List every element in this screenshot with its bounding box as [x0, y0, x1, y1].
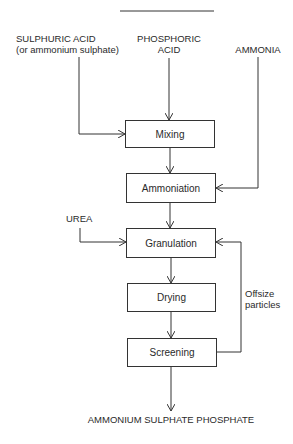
recycle-label: Offsize particles [245, 288, 280, 310]
step-granulation: Granulation [126, 228, 216, 258]
input-sulphuric-acid: SULPHURIC ACID (or ammonium sulphate) [16, 33, 119, 55]
phosphoric-acid-line2: ACID [136, 44, 202, 55]
recycle-label-line2: particles [245, 299, 280, 310]
phosphoric-acid-line1: PHOSPHORIC [136, 33, 202, 44]
step-mixing-label: Mixing [156, 129, 185, 140]
input-phosphoric-acid: PHOSPHORIC ACID [136, 33, 202, 55]
step-drying: Drying [127, 283, 216, 312]
output-product: AMMONIUM SULPHATE PHOSPHATE [60, 414, 282, 425]
input-urea: UREA [66, 213, 92, 224]
step-screening: Screening [127, 338, 217, 367]
sulphuric-acid-line1: SULPHURIC ACID [16, 33, 119, 44]
step-ammoniation-label: Ammoniation [142, 183, 200, 194]
step-screening-label: Screening [149, 347, 194, 358]
step-mixing: Mixing [125, 120, 215, 148]
flow-connectors [0, 0, 293, 444]
step-granulation-label: Granulation [145, 238, 197, 249]
step-ammoniation: Ammoniation [126, 173, 216, 203]
sulphuric-acid-line2: (or ammonium sulphate) [16, 44, 119, 55]
step-drying-label: Drying [157, 292, 186, 303]
recycle-label-line1: Offsize [245, 288, 280, 299]
input-ammonia: AMMONIA [226, 44, 290, 55]
